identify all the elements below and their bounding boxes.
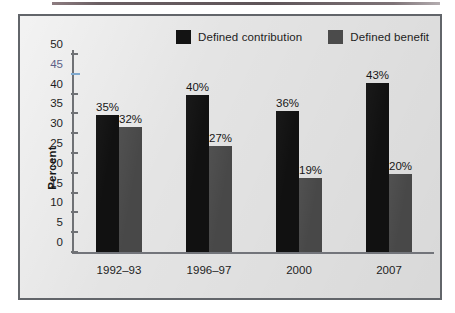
legend-swatch-defined-benefit: [328, 30, 343, 44]
bar[interactable]: 36%: [276, 111, 299, 252]
x-axis-label: 1996–97: [164, 264, 254, 282]
bar[interactable]: 43%: [366, 83, 389, 252]
bar-column: 40%: [186, 56, 209, 252]
legend-label-defined-contribution: Defined contribution: [198, 31, 302, 43]
bar-value-label: 19%: [299, 164, 322, 176]
y-tick-label: 20: [50, 157, 63, 169]
y-tick-label: 15: [50, 177, 63, 189]
legend-item-defined-benefit: Defined benefit: [328, 30, 429, 44]
y-tick-label: 0: [57, 236, 63, 248]
bar-value-label: 27%: [209, 132, 232, 144]
legend-item-defined-contribution: Defined contribution: [176, 30, 302, 44]
bar-value-label: 43%: [366, 69, 389, 81]
bar-group: 36%19%: [254, 56, 344, 252]
chart-legend: Defined contribution Defined benefit: [176, 28, 434, 46]
x-axis-labels: 1992–931996–9720002007: [74, 264, 434, 282]
bar-column: 19%: [299, 56, 322, 252]
bar-value-label: 40%: [186, 81, 209, 93]
bar-value-label: 20%: [389, 160, 412, 172]
bar[interactable]: 19%: [299, 178, 322, 252]
chart-figure: Defined contribution Defined benefit Per…: [18, 14, 442, 300]
bar-group: 40%27%: [164, 56, 254, 252]
bar-group: 43%20%: [344, 56, 434, 252]
x-axis-label: 1992–93: [74, 264, 164, 282]
bar-column: 27%: [209, 56, 232, 252]
x-axis-line: [72, 252, 434, 254]
y-tick-label: 40: [50, 78, 63, 90]
bar-pair: 36%19%: [276, 56, 322, 252]
bar[interactable]: 35%: [96, 115, 119, 252]
y-tick-label: 5: [57, 216, 63, 228]
y-tick-mark: [71, 53, 78, 55]
bar-groups: 35%32%40%27%36%19%43%20%: [74, 56, 434, 252]
bar-column: 32%: [119, 56, 142, 252]
x-axis-label: 2007: [344, 264, 434, 282]
bar-value-label: 32%: [119, 113, 142, 125]
bar-column: 43%: [366, 56, 389, 252]
y-tick-label: 10: [50, 196, 63, 208]
bar[interactable]: 40%: [186, 95, 209, 252]
bar-value-label: 35%: [96, 101, 119, 113]
bar[interactable]: 32%: [119, 127, 142, 252]
bar-column: 36%: [276, 56, 299, 252]
bar-pair: 40%27%: [186, 56, 232, 252]
legend-label-defined-benefit: Defined benefit: [350, 31, 429, 43]
y-tick-label: 45: [50, 58, 63, 70]
y-tick-label: 35: [50, 97, 63, 109]
bar-pair: 43%20%: [366, 56, 412, 252]
bar-value-label: 36%: [276, 97, 299, 109]
top-page-rule: [52, 2, 440, 5]
y-tick-label: 25: [50, 137, 63, 149]
y-tick-label: 30: [50, 117, 63, 129]
x-axis-label: 2000: [254, 264, 344, 282]
bar-column: 20%: [389, 56, 412, 252]
legend-swatch-defined-contribution: [176, 30, 191, 44]
bar-column: 35%: [96, 56, 119, 252]
bar-group: 35%32%: [74, 56, 164, 252]
bar[interactable]: 27%: [209, 146, 232, 252]
bar[interactable]: 20%: [389, 174, 412, 252]
bar-pair: 35%32%: [96, 56, 142, 252]
plot-area: 50454035302520151050 35%32%40%27%36%19%4…: [72, 56, 434, 254]
y-tick-label: 50: [50, 38, 63, 50]
